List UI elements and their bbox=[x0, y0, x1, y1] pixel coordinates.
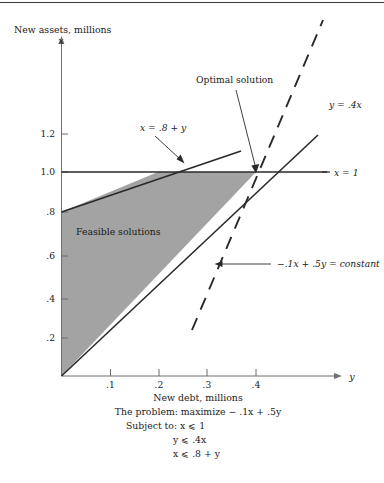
constraint-08y-leader-line bbox=[155, 136, 180, 159]
x-tick-label-0.3: .3 bbox=[203, 379, 212, 390]
caption-line-4: x ⩽ .8 + y bbox=[173, 448, 221, 459]
linear-programming-figure: New assets, millions x New debt, million… bbox=[0, 0, 384, 483]
caption-line-2: Subject to: x ⩽ 1 bbox=[126, 420, 205, 431]
y-tick-label-0.4: .4 bbox=[46, 293, 55, 304]
y-tick-label-1.0: 1.0 bbox=[40, 166, 55, 177]
caption-line-3: y ⩽ .4x bbox=[172, 434, 207, 445]
y-tick-label-0.6: .6 bbox=[46, 250, 55, 261]
line-label-y-equals-point4x: y = .4x bbox=[328, 99, 362, 110]
y-axis-title: New assets, millions bbox=[14, 24, 112, 35]
optimal-solution-leader-line bbox=[236, 90, 256, 167]
x-axis-title: New debt, millions bbox=[153, 392, 243, 403]
objective-line-label: −.1x + .5y = constant bbox=[277, 258, 380, 269]
x-axis-symbol: y bbox=[348, 371, 355, 382]
caption-line-1: The problem: maximize − .1x + .5y bbox=[115, 406, 282, 417]
y-tick-label-1.2: 1.2 bbox=[40, 128, 55, 139]
x-tick-label-0.2: .2 bbox=[155, 379, 164, 390]
optimal-solution-label: Optimal solution bbox=[196, 74, 273, 85]
horizontal-axis-arrowhead bbox=[334, 373, 342, 379]
x-tick-label-0.4: .4 bbox=[252, 379, 261, 390]
y-tick-label-0.2: .2 bbox=[46, 332, 55, 343]
y-tick-label-0.8: .8 bbox=[46, 206, 55, 217]
line-label-x-equals-point8-plus-y: x = .8 + y bbox=[140, 122, 187, 133]
x-tick-label-0.1: .1 bbox=[106, 379, 115, 390]
figure-canvas: New assets, millions x New debt, million… bbox=[0, 0, 384, 483]
constraint-08y-arrowhead bbox=[177, 155, 185, 164]
line-label-x-equals-1: x = 1 bbox=[334, 167, 359, 178]
feasible-solutions-label: Feasible solutions bbox=[76, 226, 161, 237]
y-axis-symbol: x bbox=[58, 35, 64, 46]
